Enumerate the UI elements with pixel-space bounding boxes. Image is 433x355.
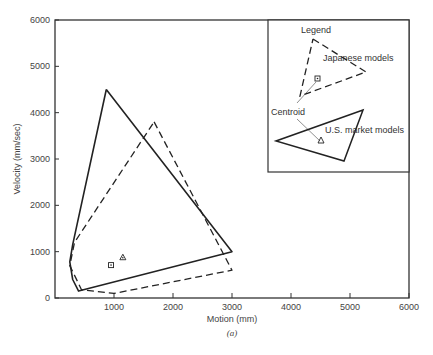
x-tick-label: 3000 (222, 302, 242, 312)
velocity-motion-chart: 0100020003000400050006000100020003000400… (0, 0, 433, 355)
figure-caption: (a) (227, 328, 238, 338)
y-tick-label: 2000 (30, 200, 50, 210)
y-tick-label: 0 (45, 293, 50, 303)
legend-inset: Legend Japanese models Centroid U.S. mar… (268, 20, 409, 172)
y-tick-label: 1000 (30, 247, 50, 257)
x-tick-label: 1000 (104, 302, 124, 312)
legend-japanese-label: Japanese models (323, 53, 394, 63)
y-tick-label: 4000 (30, 108, 50, 118)
legend-title: Legend (301, 25, 331, 35)
x-tick-label: 5000 (340, 302, 360, 312)
legend-us-label: U.S. market models (325, 125, 405, 135)
y-axis-label: Velocity (mm/sec) (12, 123, 22, 194)
x-axis-label: Motion (mm) (207, 314, 258, 324)
y-tick-label: 6000 (30, 15, 50, 25)
y-tick-label: 5000 (30, 61, 50, 71)
x-tick-label: 6000 (399, 302, 419, 312)
us-models-polygon (70, 90, 232, 292)
data-polygons (70, 90, 232, 294)
legend-centroid-label: Centroid (271, 107, 305, 117)
x-tick-label: 2000 (163, 302, 183, 312)
x-tick-label: 4000 (281, 302, 301, 312)
legend-box (268, 20, 409, 172)
y-tick-label: 3000 (30, 154, 50, 164)
